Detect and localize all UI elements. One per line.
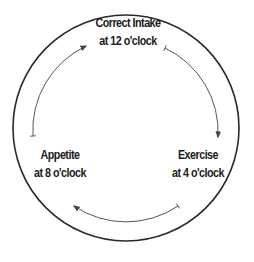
node-title: Appetite [17,146,103,164]
arrow-exercise-to-appetite [74,206,178,222]
node-title: Correct Intake [76,14,179,32]
node-subtitle: at 4 o'clock [155,164,241,182]
arrow-intake-to-exercise [165,48,218,137]
arrow-appetite-to-intake [33,46,86,136]
node-subtitle: at 12 o'clock [76,32,179,50]
node-appetite: Appetite at 8 o'clock [17,146,103,182]
node-correct-intake: Correct Intake at 12 o'clock [76,14,179,50]
node-exercise: Exercise at 4 o'clock [155,146,241,182]
node-title: Exercise [155,146,241,164]
node-subtitle: at 8 o'clock [17,164,103,182]
